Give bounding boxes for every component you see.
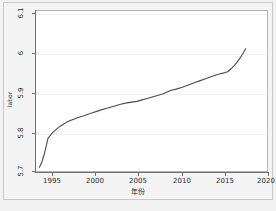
y-tick-label-text: 5.8 (17, 127, 25, 138)
x-tick-label-2010: 2010 (173, 177, 191, 185)
labor-series-line (36, 11, 267, 171)
x-tick-mark (95, 173, 96, 176)
plot-area (35, 10, 268, 172)
y-tick-mark (32, 133, 35, 134)
y-tick-label-text: 5.9 (17, 87, 25, 98)
x-axis-line (35, 172, 269, 173)
y-tick-label-5-7: 5.7 (14, 164, 28, 178)
y-tick-label-6-1: 6.1 (14, 6, 28, 20)
y-tick-mark (32, 53, 35, 54)
x-tick-mark (182, 173, 183, 176)
y-tick-label-6-0: 6 (14, 46, 28, 60)
x-tick-mark (52, 173, 53, 176)
x-tick-label-2020: 2020 (257, 177, 275, 185)
y-axis-title: labor (4, 82, 16, 116)
x-tick-mark (138, 173, 139, 176)
y-tick-label-text: 6 (17, 51, 25, 55)
y-tick-label-5-9: 5.9 (14, 86, 28, 100)
x-axis-title: 年份 (0, 186, 276, 196)
y-axis-line (35, 10, 36, 173)
chart-figure: 6.1 6 5.9 5.8 5.7 labor 1995 2000 2005 2… (0, 0, 276, 211)
x-tick-label-2000: 2000 (86, 177, 104, 185)
y-axis-title-text: labor (7, 91, 14, 106)
x-tick-label-2005: 2005 (129, 177, 147, 185)
y-tick-label-text: 6.1 (17, 7, 25, 18)
y-tick-label-text: 5.7 (17, 165, 25, 176)
x-tick-mark (225, 173, 226, 176)
x-tick-label-2015: 2015 (216, 177, 234, 185)
x-tick-mark (268, 173, 269, 176)
y-tick-mark (32, 93, 35, 94)
y-tick-label-5-8: 5.8 (14, 126, 28, 140)
x-tick-label-1995: 1995 (43, 177, 61, 185)
y-tick-mark (32, 13, 35, 14)
